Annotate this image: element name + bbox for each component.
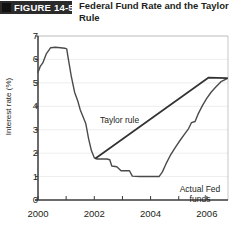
figure-title: Federal Fund Rate and the Taylor Rule bbox=[79, 0, 237, 23]
chart-area: Interest rate (%) 01234567 2000200220042… bbox=[0, 30, 238, 229]
banner-square-icon bbox=[2, 3, 11, 12]
annotation-taylor-rule: Taylor rule bbox=[100, 116, 139, 126]
figure-number-label: FIGURE 14-5 bbox=[14, 3, 74, 13]
annotation-actual-fed-funds: Actual Fedfunds bbox=[170, 185, 230, 204]
series-line-actual-fed-funds bbox=[38, 47, 227, 176]
figure-header: FIGURE 14-5 Federal Fund Rate and the Ta… bbox=[0, 0, 238, 30]
figure-number-banner: FIGURE 14-5 bbox=[0, 1, 72, 14]
figure-container: FIGURE 14-5 Federal Fund Rate and the Ta… bbox=[0, 0, 238, 229]
